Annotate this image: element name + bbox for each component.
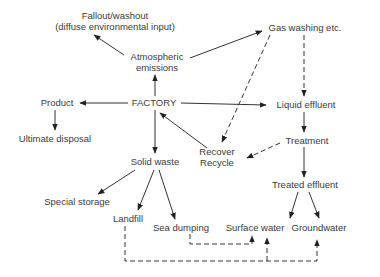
node-atmospheric-line1: Atmospheric bbox=[131, 51, 184, 62]
edge-atmospheric-fallout bbox=[94, 35, 124, 55]
node-treated-effluent: Treated effluent bbox=[272, 179, 338, 190]
node-ultimate-disposal: Ultimate disposal bbox=[19, 133, 91, 144]
diagram-svg: Fallout/washout (diffuse environmental i… bbox=[0, 0, 380, 277]
node-atmospheric-line2: emissions bbox=[136, 62, 178, 73]
node-groundwater: Groundwater bbox=[292, 222, 347, 233]
node-liquid-effluent: Liquid effluent bbox=[277, 99, 336, 110]
edge-solid-landfill bbox=[138, 170, 154, 210]
node-fallout-line2: (diffuse environmental input) bbox=[55, 21, 175, 32]
node-solid-waste: Solid waste bbox=[131, 156, 180, 167]
node-sea-dumping: Sea dumping bbox=[153, 222, 209, 233]
node-treatment: Treatment bbox=[286, 135, 329, 146]
node-recycle: Recycle bbox=[200, 157, 234, 168]
edge-atmospheric-gaswashing bbox=[190, 31, 262, 58]
node-special-storage: Special storage bbox=[44, 196, 109, 207]
edge-treatment-recycle bbox=[247, 143, 280, 158]
edge-solid-sea bbox=[159, 170, 175, 219]
solid-edges bbox=[55, 31, 319, 219]
edge-sea-surface bbox=[190, 234, 252, 244]
pollution-flow-diagram: Fallout/washout (diffuse environmental i… bbox=[0, 0, 380, 277]
node-fallout-line1: Fallout/washout bbox=[82, 10, 149, 21]
edge-treated-ground bbox=[309, 192, 319, 218]
edge-factory-liquid bbox=[181, 103, 266, 105]
node-product: Product bbox=[41, 97, 74, 108]
node-labels: Fallout/washout (diffuse environmental i… bbox=[19, 10, 347, 233]
node-factory: FACTORY bbox=[132, 97, 177, 108]
edge-gaswashing-recover bbox=[222, 35, 270, 142]
edge-recover-factory bbox=[160, 113, 207, 148]
edge-treated-surface bbox=[290, 192, 298, 218]
node-gas-washing: Gas washing etc. bbox=[269, 22, 342, 33]
node-recover: Recover bbox=[199, 146, 234, 157]
node-surface-water: Surface water bbox=[226, 222, 285, 233]
edge-solid-storage bbox=[98, 170, 135, 194]
node-landfill: Landfill bbox=[113, 213, 143, 224]
